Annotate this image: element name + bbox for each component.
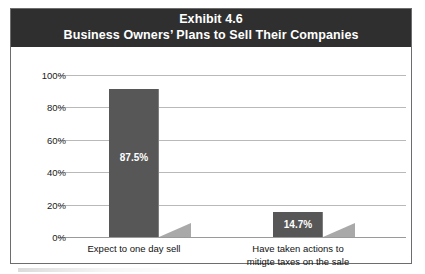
y-axis-tick-0: 0% xyxy=(20,232,66,243)
exhibit-figure: Exhibit 4.6 Business Owners’ Plans to Se… xyxy=(0,0,425,274)
x-axis-label-1: Expect to one day sell xyxy=(64,243,204,256)
exhibit-number: Exhibit 4.6 xyxy=(179,12,243,28)
bar-shadow-2 xyxy=(323,223,355,237)
bar-expect-to-one-day-sell[interactable] xyxy=(109,89,159,237)
bar-shadow-1 xyxy=(159,223,191,237)
chart-frame: Exhibit 4.6 Business Owners’ Plans to Se… xyxy=(10,8,412,264)
y-axis-tick-60: 60% xyxy=(20,135,66,146)
y-axis-tick-80: 80% xyxy=(20,102,66,113)
scan-artifact xyxy=(18,268,188,272)
bar-value-label-1: 87.5% xyxy=(109,152,159,163)
gridline-100 xyxy=(58,75,406,76)
x-axis-label-1-line-1: Expect to one day sell xyxy=(64,243,204,256)
gridline-0 xyxy=(58,237,406,238)
x-axis-label-2-line-2: mitigte taxes on the sale xyxy=(228,256,368,269)
x-axis-label-2: Have taken actions to mitigte taxes on t… xyxy=(228,243,368,269)
y-axis-tick-40: 40% xyxy=(20,167,66,178)
x-axis-label-2-line-1: Have taken actions to xyxy=(228,243,368,256)
exhibit-title: Business Owners’ Plans to Sell Their Com… xyxy=(64,28,359,44)
y-axis-tick-20: 20% xyxy=(20,200,66,211)
y-axis-tick-100: 100% xyxy=(20,70,66,81)
bar-value-label-2: 14.7% xyxy=(273,219,323,230)
plot-area: 100% 80% 60% 40% 20% 0% 87.5% 14.7% Expe… xyxy=(11,47,411,263)
chart-title-band: Exhibit 4.6 Business Owners’ Plans to Se… xyxy=(11,9,411,47)
